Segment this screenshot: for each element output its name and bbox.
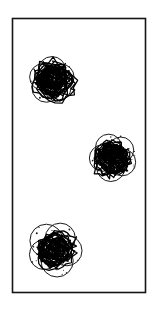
speckle-dot	[36, 260, 37, 261]
speckle-dot	[134, 155, 135, 156]
speckle-dot	[69, 66, 70, 67]
speckle-dot	[38, 227, 39, 228]
speckle-dot	[92, 160, 94, 162]
speckle-dot	[110, 136, 111, 137]
speckle-dot	[120, 136, 122, 138]
speckle-dot	[62, 274, 63, 275]
speckle-dot	[36, 232, 38, 234]
figure-canvas	[0, 0, 160, 309]
figure-root	[0, 0, 160, 309]
speckle-dot	[66, 272, 67, 273]
speckle-dot	[131, 159, 132, 160]
speckle-dot	[68, 229, 70, 231]
speckle-dot	[51, 230, 52, 231]
speckle-dot	[77, 260, 78, 261]
speckle-dot	[31, 261, 33, 263]
speckle-dot	[133, 166, 134, 167]
speckle-dot	[117, 138, 118, 139]
speckle-dot	[30, 80, 32, 82]
speckle-dot	[133, 164, 134, 165]
speckle-dot	[33, 246, 35, 248]
speckle-dot	[134, 151, 135, 152]
speckle-dot	[63, 270, 64, 271]
speckle-dot	[39, 97, 41, 99]
speckle-dot	[133, 167, 134, 168]
speckle-dot	[62, 264, 63, 265]
